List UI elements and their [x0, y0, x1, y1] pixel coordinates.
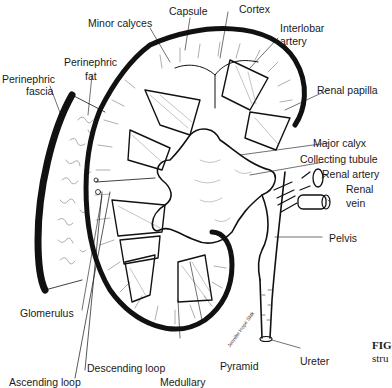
label-ureter: Ureter [300, 355, 329, 367]
label-interlobar-artery-1: Interlobar [280, 22, 324, 34]
label-minor-calyces: Minor calyces [88, 17, 152, 29]
renal-pyramid [125, 255, 155, 302]
label-renal-vein-2: vein [346, 197, 365, 209]
label-renal-artery: Renal artery [322, 168, 379, 180]
label-ascending-loop: Ascending loop [9, 376, 81, 388]
label-pelvis: Pelvis [329, 232, 357, 244]
collecting-tubule [96, 178, 155, 182]
label-perinephric-fascia-2: fascia [26, 85, 53, 97]
label-perinephric-fat-1: Perinephric [64, 56, 117, 68]
renal-pyramid [222, 60, 268, 110]
label-cortex: Cortex [239, 3, 270, 15]
renal-pelvis [259, 195, 268, 280]
label-major-calyx: Major calyx [313, 137, 366, 149]
renal-pyramid [178, 255, 212, 302]
figure-caption-prefix: FIG [372, 338, 392, 352]
figure-caption-line2: stru [372, 351, 389, 365]
pyramid-shading [118, 66, 278, 298]
ureter [270, 172, 285, 338]
ureter-opening [260, 337, 272, 342]
major-calyx [152, 129, 275, 243]
label-interlobar-artery-2: artery [280, 35, 307, 47]
label-collecting-tubule: Collecting tubule [300, 153, 378, 165]
label-medullary: Medullary [160, 376, 206, 388]
label-renal-vein-1: Renal [346, 183, 373, 195]
glomerulus [96, 190, 101, 195]
label-capsule: Capsule [169, 5, 208, 17]
label-pyramid: Pyramid [220, 360, 259, 372]
label-perinephric-fat-2: fat [85, 70, 97, 82]
label-descending-loop: Descending loop [87, 362, 165, 374]
label-glomerulus: Glomerulus [20, 307, 74, 319]
sinus-texture [195, 160, 251, 222]
label-perinephric-fascia-1: Perinephric [2, 73, 55, 85]
label-renal-papilla: Renal papilla [317, 84, 378, 96]
renal-pyramid [145, 90, 200, 135]
renal-pyramid [245, 112, 290, 150]
perinephric-fascia [38, 95, 72, 290]
